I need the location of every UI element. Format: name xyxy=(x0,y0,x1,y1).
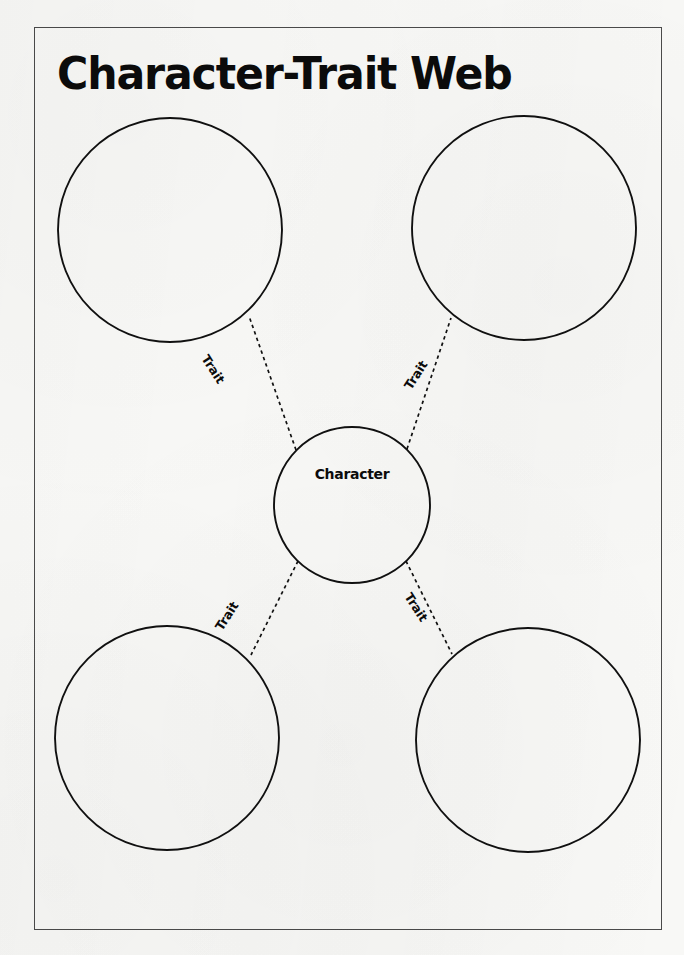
trait-circle-top-left[interactable] xyxy=(58,118,282,342)
trait-circle-bottom-left[interactable] xyxy=(55,626,279,850)
connector-line-bottom-left xyxy=(251,561,298,655)
character-label: Character xyxy=(302,466,402,482)
trait-circle-bottom-right[interactable] xyxy=(416,628,640,852)
trait-circle-top-right[interactable] xyxy=(412,116,636,340)
page-title: Character-Trait Web xyxy=(57,48,512,99)
connector-line-top-left xyxy=(249,316,296,450)
worksheet-page: Character-Trait Web Character Trait Trai… xyxy=(0,0,684,955)
character-circle[interactable] xyxy=(274,427,430,583)
